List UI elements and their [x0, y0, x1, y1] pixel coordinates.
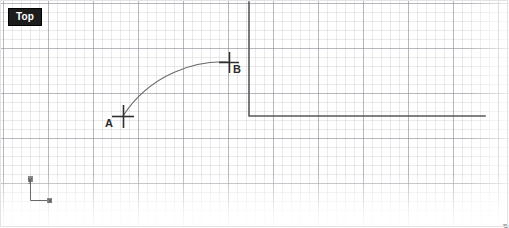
corner-polyline: [249, 2, 485, 116]
fillet-arc: [123, 62, 229, 116]
copyright-text: © 2014 Cengage Learning®. All Rights Res…: [501, 224, 509, 228]
point-a-label: A: [105, 118, 113, 129]
geometry-layer: [0, 0, 509, 228]
point-b-label: B: [233, 64, 241, 75]
point-a-cross-marker[interactable]: [112, 105, 134, 128]
viewport-label-badge[interactable]: Top: [8, 8, 42, 26]
copyright-notice: © 2014 Cengage Learning®. All Rights Res…: [501, 224, 509, 228]
axis-y-label: y: [28, 176, 32, 184]
axis-x-label: x: [48, 197, 52, 205]
cad-viewport[interactable]: Top A B y x © 2014 Cengage Learning®. Al…: [0, 0, 509, 228]
